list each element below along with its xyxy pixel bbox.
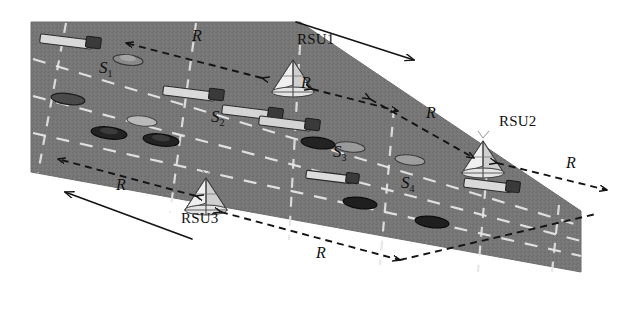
segment-label-s4-sub: 4 [410,183,415,194]
range-label-r-rsu1-right: R [301,74,311,92]
segment-label-s2-base: S [211,107,220,126]
segment-label-s4: S4 [401,173,415,194]
segment-label-s4-base: S [401,173,410,192]
segment-label-s3: S3 [333,142,347,163]
figure-root: RSU1 RSU2 RSU3 S1 S2 S3 S4 R R R R R R [0,0,631,325]
rsu-label-rsu2: RSU2 [499,113,536,130]
rsu-label-rsu3: RSU3 [181,210,218,227]
segment-label-s1: S1 [99,58,113,79]
road-scene-svg [0,0,631,325]
range-label-r-mid-right: R [426,104,436,122]
segment-label-s2: S2 [211,107,225,128]
range-label-r-far-right: R [566,154,576,172]
segment-label-s2-sub: 2 [220,117,225,128]
range-label-r-top-left: R [192,27,202,45]
segment-label-s3-sub: 3 [342,152,347,163]
rsu-label-rsu1: RSU1 [297,31,334,48]
segment-label-s1-sub: 1 [108,68,113,79]
range-label-r-bot-left: R [116,176,126,194]
segment-label-s1-base: S [99,58,108,77]
range-label-r-bot-mid: R [316,244,326,262]
segment-label-s3-base: S [333,142,342,161]
